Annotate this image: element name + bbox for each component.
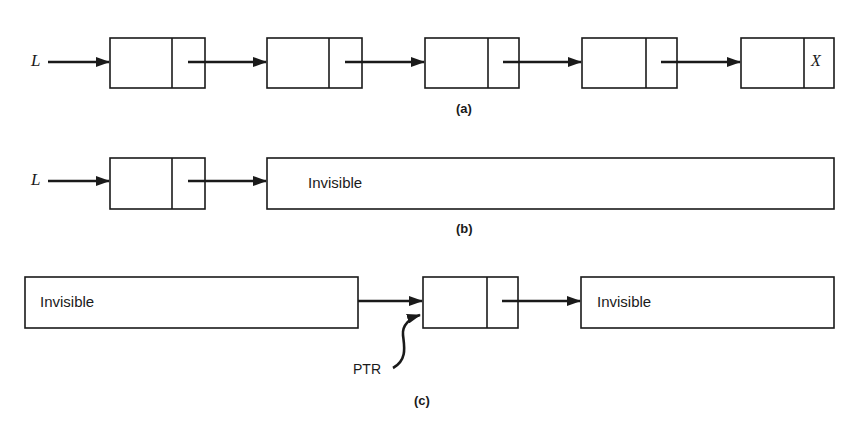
current-node (423, 277, 518, 328)
invisible-label-left: Invisible (40, 293, 94, 310)
panel-c (25, 277, 834, 368)
ptr-arrow (393, 315, 420, 368)
invisible-label-b: Invisible (308, 174, 362, 191)
panel-a (48, 38, 834, 88)
head-label-b: L (31, 170, 40, 190)
caption-c: (c) (414, 393, 430, 408)
caption-a: (a) (456, 101, 472, 116)
invisible-label-right: Invisible (597, 293, 651, 310)
null-marker: X (811, 52, 821, 70)
linked-list-diagram (0, 0, 858, 428)
ptr-label: PTR (353, 361, 381, 377)
caption-b: (b) (456, 221, 473, 236)
panel-b (48, 158, 834, 209)
head-label-a: L (31, 51, 40, 71)
node-1 (110, 158, 205, 209)
